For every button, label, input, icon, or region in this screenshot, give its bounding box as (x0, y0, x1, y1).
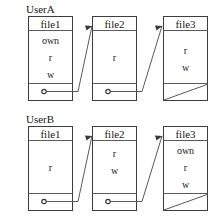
permission-userb-file2-1: w (111, 165, 119, 176)
permission-usera-file1-2: w (47, 69, 55, 80)
node-usera-file3: file3 r w (164, 17, 208, 101)
node-title-userb-file1: file1 (40, 128, 60, 140)
node-userb-file3: file3 own r w (164, 127, 208, 211)
permission-userb-file3-0: own (177, 145, 194, 156)
node-usera-file2: file2 r (93, 17, 137, 101)
node-userb-file2: file2 r w (93, 127, 137, 211)
pointer-dot-userb-file2 (106, 199, 110, 203)
node-title-userb-file2: file2 (104, 128, 124, 140)
pointer-dot-userb-file1 (42, 199, 46, 203)
node-title-usera-file1: file1 (40, 18, 60, 30)
user-label-userb: UserB (26, 113, 54, 125)
pointer-dot-usera-file1 (42, 89, 46, 93)
node-usera-file1: file1 own r w (29, 17, 73, 101)
user-label-usera: UserA (26, 3, 55, 15)
acl-row-usera: UserA file1 own r w (26, 3, 208, 101)
pointer-dot-usera-file2 (106, 89, 110, 93)
acl-row-userb: UserB file1 r file2 r (26, 113, 208, 211)
permission-usera-file1-0: own (42, 35, 59, 46)
node-title-userb-file3: file3 (175, 128, 196, 140)
acl-diagram: UserA file1 own r w (0, 0, 221, 218)
permission-userb-file3-2: w (182, 179, 190, 190)
node-title-usera-file2: file2 (104, 18, 124, 30)
permission-usera-file3-1: w (182, 62, 190, 73)
node-title-usera-file3: file3 (175, 18, 196, 30)
node-userb-file1: file1 r (29, 127, 73, 211)
